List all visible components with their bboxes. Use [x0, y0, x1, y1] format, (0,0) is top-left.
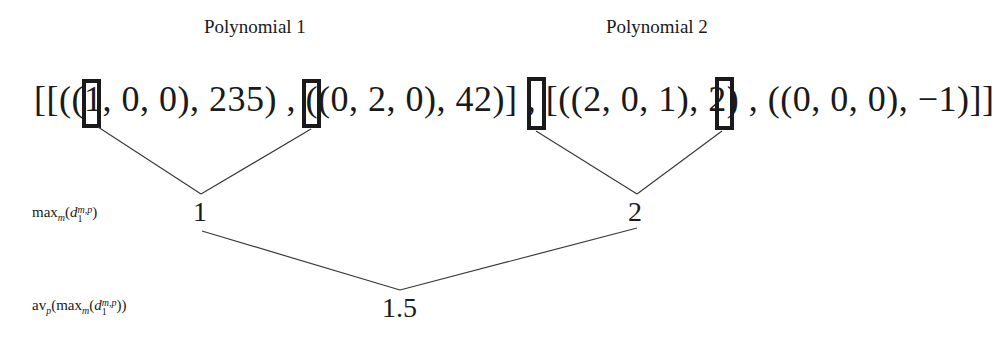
av-text: av	[32, 297, 46, 313]
d-sub: 1	[78, 214, 93, 223]
average-node: 1.5	[382, 292, 417, 324]
max-text-2: max	[56, 297, 82, 313]
max-node-polynomial-2: 2	[628, 196, 642, 228]
max-sub-2: m	[82, 305, 89, 316]
d-sub-2: 1	[102, 307, 117, 316]
max-sub: m	[58, 212, 65, 223]
connector-max1-to-avg	[202, 231, 400, 290]
connector-p1m1-to-max1	[98, 127, 201, 194]
connector-p1m2-to-max1	[201, 129, 311, 194]
connector-max2-to-avg	[400, 228, 637, 290]
max-text: max	[32, 204, 58, 220]
d-symbol: d	[70, 204, 78, 220]
max-row-label: maxm(dm,p1)	[32, 204, 97, 223]
d-symbol-2: d	[94, 297, 102, 313]
connector-p2m2-to-max2	[637, 131, 722, 194]
average-row-label: avp(maxm(dm,p1))	[32, 297, 126, 316]
av-sub: p	[46, 305, 51, 316]
max-node-polynomial-1: 1	[193, 196, 207, 228]
connector-p2m1-to-max2	[536, 131, 637, 194]
